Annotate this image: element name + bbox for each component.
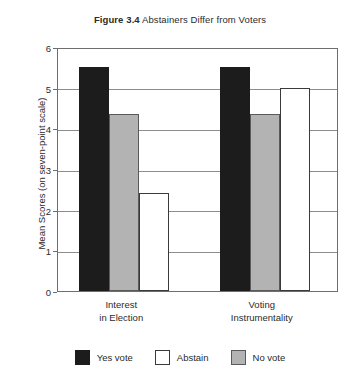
y-tick-mark	[53, 292, 57, 293]
figure-number: Figure 3.4	[94, 14, 140, 25]
x-category-label: Interestin Election	[41, 299, 201, 324]
x-category-label: VotingInstrumentality	[182, 299, 342, 324]
y-tick-label: 0	[11, 287, 51, 298]
bar	[139, 193, 169, 291]
plot-area	[57, 48, 338, 292]
y-tick-label: 5	[11, 83, 51, 94]
bar	[109, 114, 139, 291]
y-tick-label: 4	[11, 124, 51, 135]
bar	[79, 67, 109, 291]
legend-item[interactable]: No vote	[231, 350, 286, 365]
legend-swatch-icon	[75, 350, 90, 365]
legend-swatch-icon	[155, 350, 170, 365]
legend-label: No vote	[253, 352, 286, 363]
bar	[280, 88, 310, 291]
legend-item[interactable]: Abstain	[155, 350, 209, 365]
x-category-label-line: in Election	[41, 312, 201, 325]
y-tick-label: 1	[11, 246, 51, 257]
legend-label: Yes vote	[97, 352, 133, 363]
chart-title: Figure 3.4 Abstainers Differ from Voters	[0, 14, 360, 25]
y-tick-label: 2	[11, 205, 51, 216]
x-category-label-line: Instrumentality	[182, 312, 342, 325]
legend-item[interactable]: Yes vote	[75, 350, 133, 365]
y-tick-label: 6	[11, 43, 51, 54]
x-category-label-line: Voting	[182, 299, 342, 312]
figure-caption: Abstainers Differ from Voters	[140, 14, 266, 25]
legend-swatch-icon	[231, 350, 246, 365]
chart-legend: Yes voteAbstainNo vote	[0, 350, 360, 365]
bar	[250, 114, 280, 291]
legend-label: Abstain	[177, 352, 209, 363]
bar	[220, 67, 250, 291]
x-category-label-line: Interest	[41, 299, 201, 312]
y-tick-label: 3	[11, 165, 51, 176]
